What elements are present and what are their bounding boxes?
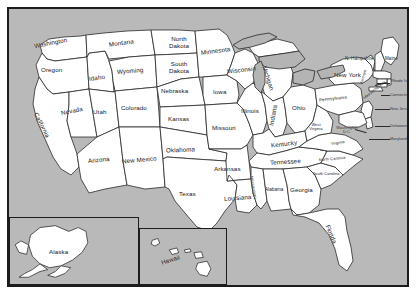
us-states-map-figure: Washington Oregon California Nevada Idah… bbox=[0, 0, 416, 294]
hawaii-inset bbox=[139, 228, 227, 285]
map-frame: Washington Oregon California Nevada Idah… bbox=[7, 7, 409, 287]
alaska-inset bbox=[9, 217, 139, 285]
